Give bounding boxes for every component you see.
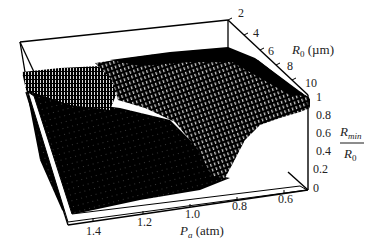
surface-plot: 2 4 6 8 10 R0 (µm) 1 0.8 0.6 0.4 0.2 0 R… xyxy=(0,0,382,248)
svg-text:4: 4 xyxy=(253,26,259,40)
svg-text:1: 1 xyxy=(316,90,322,104)
svg-text:0.8: 0.8 xyxy=(316,108,331,122)
svg-text:0.6: 0.6 xyxy=(278,192,293,206)
svg-text:1.0: 1.0 xyxy=(185,207,200,221)
x-axis-label: Pa (atm) xyxy=(179,223,224,240)
svg-text:0.2: 0.2 xyxy=(313,162,328,176)
svg-text:0: 0 xyxy=(313,181,319,195)
svg-text:0.8: 0.8 xyxy=(232,199,247,213)
svg-text:2: 2 xyxy=(238,6,244,20)
svg-text:R0: R0 xyxy=(343,146,357,163)
z-axis-tick-labels: 1 0.8 0.6 0.4 0.2 0 xyxy=(313,90,331,195)
svg-text:0.4: 0.4 xyxy=(316,144,331,158)
svg-text:1.2: 1.2 xyxy=(137,215,152,229)
svg-text:6: 6 xyxy=(268,44,274,58)
svg-text:0.6: 0.6 xyxy=(316,126,331,140)
svg-text:1.4: 1.4 xyxy=(86,224,101,238)
y-axis-label: R0 (µm) xyxy=(291,42,334,59)
svg-text:10: 10 xyxy=(305,76,317,90)
svg-text:8: 8 xyxy=(287,59,293,73)
svg-text:Rmin: Rmin xyxy=(339,124,362,141)
z-axis-label: Rmin R0 xyxy=(339,124,364,163)
